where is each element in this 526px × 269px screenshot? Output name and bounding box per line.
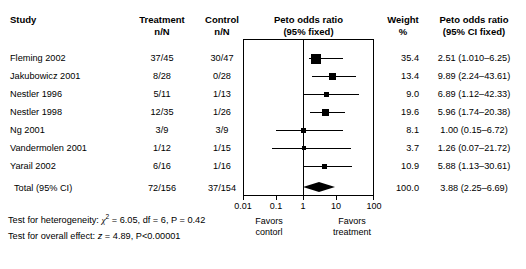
effect-marker	[324, 92, 329, 97]
table-row-odds-ratio: 5.96 (1.74–20.38)	[424, 107, 524, 118]
axis-tick-label: 100	[362, 201, 386, 211]
heterogeneity-prefix: Test for heterogeneity:	[8, 215, 101, 225]
axis-tick-mark	[243, 196, 244, 200]
header-study: Study	[10, 14, 36, 25]
table-row-control: 1/16	[196, 161, 248, 172]
header-plot-subtitle: (95% fixed)	[243, 26, 374, 37]
axis-tick-mark	[373, 196, 374, 200]
ci-line	[304, 94, 359, 95]
effect-marker	[311, 54, 321, 64]
table-row-weight: 13.4	[383, 71, 419, 82]
total-row-weight: 100.0	[383, 183, 419, 194]
axis-tick-mark	[276, 196, 277, 200]
table-row-control: 1/26	[196, 107, 248, 118]
table-row-control: 3/9	[196, 125, 248, 136]
ci-line	[303, 166, 352, 167]
axis-tick-mark	[303, 196, 304, 200]
table-row-treatment: 3/9	[128, 125, 196, 136]
axis-tick-label: 10	[327, 201, 345, 211]
table-row-weight: 35.4	[383, 53, 419, 64]
forest-plot-box	[243, 39, 374, 196]
table-row-study: Nestler 1998	[10, 107, 62, 118]
table-row-weight: 10.9	[383, 161, 419, 172]
effect-marker	[301, 128, 306, 133]
table-row-odds-ratio: 1.00 (0.15–6.72)	[424, 125, 524, 136]
overall-prefix: Test for overall effect:	[8, 231, 98, 241]
table-row-odds-ratio: 6.89 (1.12–42.33)	[424, 89, 524, 100]
total-row-treatment: 72/156	[128, 183, 196, 194]
axis-tick-label: 0.01	[231, 201, 255, 211]
heterogeneity-test: Test for heterogeneity: χ2 = 6.05, df = …	[8, 211, 205, 226]
table-row-weight: 8.1	[383, 125, 419, 136]
null-effect-line	[303, 39, 304, 196]
table-row-weight: 9.0	[383, 89, 419, 100]
favors-control-line2: contorl	[234, 227, 304, 238]
axis-tick-label: 0.1	[265, 201, 287, 211]
table-row-odds-ratio: 5.88 (1.13–30.61)	[424, 161, 524, 172]
effect-marker	[322, 109, 329, 116]
table-row-study: Nestler 1996	[10, 89, 62, 100]
effect-marker	[322, 164, 327, 169]
table-row-study: Yarail 2002	[10, 161, 56, 172]
table-row-study: Fleming 2002	[10, 53, 66, 64]
table-row-weight: 3.7	[383, 143, 419, 154]
overall-effect-test: Test for overall effect: z = 4.89, P<0.0…	[8, 231, 180, 242]
header-weight-pct: %	[383, 26, 423, 37]
table-row-study: Vandermolen 2001	[10, 143, 87, 154]
table-row-control: 1/15	[196, 143, 248, 154]
table-row-control: 30/47	[196, 53, 248, 64]
table-row-treatment: 8/28	[128, 71, 196, 82]
header-control-nn: n/N	[196, 26, 248, 37]
table-row-control: 0/28	[196, 71, 248, 82]
forest-plot-figure: Study Treatment n/N Control n/N Peto odd…	[0, 0, 526, 269]
table-row-treatment: 6/16	[128, 161, 196, 172]
ci-line	[272, 148, 351, 149]
axis-tick-label: 1	[295, 201, 311, 211]
table-row-treatment: 1/12	[128, 143, 196, 154]
effect-marker	[329, 73, 336, 80]
table-row-odds-ratio: 1.26 (0.07–21.72)	[424, 143, 524, 154]
header-weight: Weight	[383, 14, 423, 25]
favors-control-line1: Favors	[234, 216, 304, 227]
table-row-study: Jakubowicz 2001	[10, 71, 80, 82]
table-row-treatment: 5/11	[128, 89, 196, 100]
overall-values: = 4.89, P<0.00001	[102, 231, 180, 241]
heterogeneity-values: = 6.05, df = 6, P = 0.42	[109, 215, 205, 225]
header-plot-title: Peto odds ratio	[243, 14, 374, 25]
favors-treatment-line2: treatment	[313, 227, 391, 238]
total-row-odds-ratio: 3.88 (2.25–6.69)	[424, 183, 524, 194]
header-odds-ratio-ci: (95% CI fixed)	[424, 26, 524, 37]
total-row-control: 37/154	[196, 183, 248, 194]
header-control: Control	[196, 14, 248, 25]
ci-line	[276, 130, 343, 131]
header-treatment-nn: n/N	[128, 26, 196, 37]
header-odds-ratio: Peto odds ratio	[424, 14, 524, 25]
effect-marker	[302, 146, 306, 150]
table-row-study: Ng 2001	[10, 125, 45, 136]
table-row-control: 1/13	[196, 89, 248, 100]
table-row-treatment: 37/45	[128, 53, 196, 64]
total-row-label: Total (95% CI)	[14, 183, 72, 194]
summary-diamond	[303, 181, 335, 193]
table-row-odds-ratio: 9.89 (2.24–43.61)	[424, 71, 524, 82]
axis-tick-mark	[336, 196, 337, 200]
favors-treatment-line1: Favors	[313, 216, 391, 227]
table-row-odds-ratio: 2.51 (1.010–6.25)	[424, 53, 524, 64]
header-treatment: Treatment	[128, 14, 196, 25]
table-row-weight: 19.6	[383, 107, 419, 118]
table-row-treatment: 12/35	[128, 107, 196, 118]
